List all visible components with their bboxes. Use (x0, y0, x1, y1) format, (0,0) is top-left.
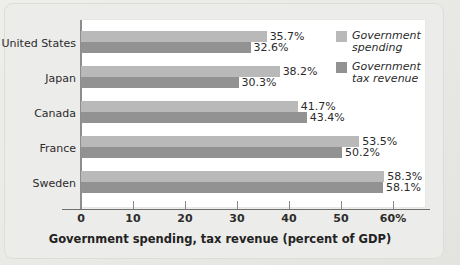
bar-spending (81, 31, 267, 42)
bar-revenue (81, 182, 383, 193)
category-label-wrap: Sweden (0, 177, 76, 189)
category-label: Japan (0, 72, 76, 85)
x-tick (289, 201, 290, 209)
x-axis-line (62, 209, 430, 210)
bar-revenue (81, 42, 251, 53)
x-tick (393, 201, 394, 209)
legend-item[interactable]: Governmenttax revenue (336, 61, 428, 85)
bar-value-label: 58.1% (386, 182, 421, 193)
legend-swatch-revenue (336, 62, 347, 73)
bar-value-label: 30.3% (242, 77, 277, 88)
category-label-wrap: Canada (0, 107, 76, 119)
category-label: France (0, 142, 76, 155)
legend-item[interactable]: Governmentspending (336, 30, 428, 54)
bar-value-label: 32.6% (254, 42, 289, 53)
bar-revenue (81, 147, 342, 158)
chart-legend: GovernmentspendingGovernmenttax revenue (336, 30, 428, 92)
x-tick-label: 60% (380, 212, 406, 225)
bar-revenue (81, 112, 307, 123)
bar-value-label: 50.2% (345, 147, 380, 158)
bar-value-label: 38.2% (283, 66, 318, 77)
category-label: Canada (0, 107, 76, 120)
bar-spending (81, 171, 384, 182)
x-tick-label: 50 (333, 212, 348, 225)
category-label-wrap: United States (0, 37, 76, 49)
chart-figure: 0102030405060% United StatesJapanCanadaF… (0, 0, 460, 265)
x-tick (237, 201, 238, 209)
legend-label-line2: tax revenue (352, 73, 428, 85)
x-tick-label: 10 (125, 212, 140, 225)
bar-spending (81, 136, 359, 147)
x-tick-label: 20 (177, 212, 192, 225)
x-tick (341, 201, 342, 209)
category-label: Sweden (0, 177, 76, 190)
category-label-wrap: Japan (0, 72, 76, 84)
legend-label-line2: spending (352, 42, 428, 54)
x-tick-label: 40 (281, 212, 296, 225)
bar-spending (81, 101, 298, 112)
legend-swatch-spending (336, 31, 347, 42)
category-label: United States (0, 37, 76, 50)
category-label-wrap: France (0, 142, 76, 154)
x-axis-title: Government spending, tax revenue (percen… (0, 232, 440, 246)
x-tick-label: 0 (77, 212, 85, 225)
bar-revenue (81, 77, 239, 88)
x-tick (185, 201, 186, 209)
x-tick-label: 30 (229, 212, 244, 225)
x-tick (133, 201, 134, 209)
bar-value-label: 43.4% (310, 112, 345, 123)
